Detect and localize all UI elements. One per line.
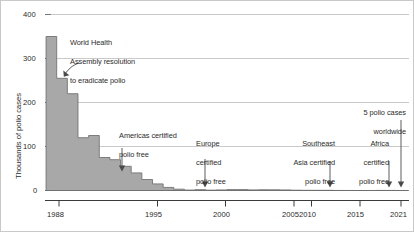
annotation-europe-line-1: Europe xyxy=(196,139,240,148)
annotation-wha-resolution: World Health Assembly resolution to erad… xyxy=(70,29,156,95)
annotation-southeast-asia-certified: Southeast Asia certified polio free xyxy=(273,130,335,196)
annotation-americas-line-2: polio free xyxy=(119,150,201,159)
annotation-southeast-asia-line-3: polio free xyxy=(273,177,335,186)
annotation-africa-line-3: polio free xyxy=(341,177,389,186)
annotation-wha-line-1: World Health xyxy=(70,38,156,47)
x-tick-marks xyxy=(59,201,401,207)
annotation-wha-line-3: to eradicate polio xyxy=(70,76,156,85)
annotation-five-cases-line-1: 5 polio cases xyxy=(341,108,406,117)
annotation-americas-certified: Americas certified polio free xyxy=(119,122,201,169)
annotation-wha-line-2: Assembly resolution xyxy=(70,57,156,66)
annotation-europe-line-3: polio free xyxy=(196,177,240,186)
annotation-five-cases-worldwide: 5 polio cases worldwide xyxy=(341,99,406,146)
annotation-americas-line-1: Americas certified xyxy=(119,131,201,140)
annotation-southeast-asia-line-1: Southeast xyxy=(273,139,335,148)
chart-figure: Thousands of polio cases 400 300 200 100… xyxy=(0,0,414,232)
annotation-africa-line-2: certified xyxy=(341,158,389,167)
annotation-europe-line-2: certified xyxy=(196,158,240,167)
annotation-southeast-asia-line-2: Asia certified xyxy=(273,158,335,167)
annotation-europe-certified: Europe certified polio free xyxy=(196,130,240,196)
annotation-five-cases-line-2: worldwide xyxy=(341,127,406,136)
